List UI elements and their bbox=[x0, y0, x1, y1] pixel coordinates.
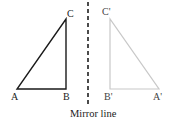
label-c: C bbox=[67, 8, 74, 19]
label-b: B bbox=[63, 91, 70, 102]
reflection-diagram: A B C C' B' A' Mirror line bbox=[0, 0, 174, 123]
original-triangle bbox=[17, 19, 66, 89]
label-b-prime: B' bbox=[104, 91, 113, 102]
reflected-triangle bbox=[110, 19, 159, 89]
label-a-prime: A' bbox=[153, 91, 162, 102]
label-a: A bbox=[11, 91, 19, 102]
label-c-prime: C' bbox=[102, 6, 111, 17]
mirror-line-caption: Mirror line bbox=[70, 108, 117, 119]
